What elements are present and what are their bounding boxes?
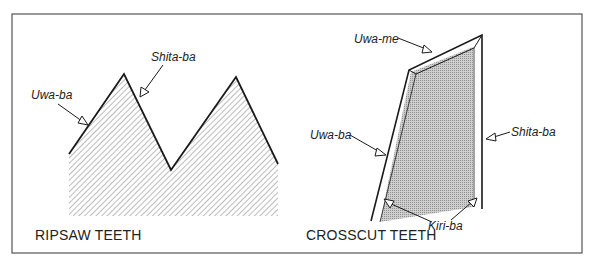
uwa-ba-arrow-icon [78, 116, 88, 125]
shita-ba-crosscut-arrow-icon [486, 133, 496, 141]
caption-ripsaw-teeth: RIPSAW TEETH [35, 227, 142, 243]
label-uwa-me: Uwa-me [354, 32, 399, 46]
shita-ba-arrow-icon [140, 87, 149, 97]
label-uwa-ba-crosscut: Uwa-ba [310, 128, 351, 142]
uwa-me-arrow-icon [422, 45, 432, 53]
label-shita-ba-crosscut: Shita-ba [511, 125, 556, 139]
label-uwa-ba-ripsaw: Uwa-ba [31, 88, 72, 102]
caption-crosscut-teeth: CROSSCUT TEETH [306, 227, 437, 243]
label-shita-ba-ripsaw: Shita-ba [151, 50, 196, 64]
uwa-ba-crosscut-arrow-icon [375, 148, 386, 156]
crosscut-tooth-drawing [350, 35, 510, 222]
ripsaw-teeth-drawing [58, 65, 278, 216]
